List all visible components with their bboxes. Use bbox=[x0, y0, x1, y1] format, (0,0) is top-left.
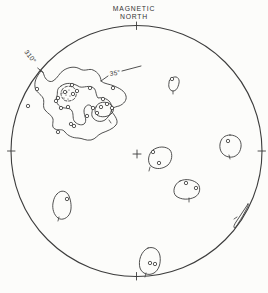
contour-isolated-edge-sliver bbox=[234, 204, 249, 228]
stipple-dot bbox=[61, 92, 62, 93]
data-point bbox=[65, 197, 68, 200]
data-point bbox=[75, 89, 78, 92]
azimuth-310-label: 310° bbox=[23, 48, 38, 64]
plot-render-layer bbox=[8, 22, 266, 280]
data-point bbox=[26, 104, 29, 107]
stipple-dot bbox=[67, 98, 68, 99]
data-point bbox=[105, 102, 108, 105]
contour-isolated-east bbox=[220, 135, 241, 157]
data-point bbox=[59, 106, 62, 109]
data-point bbox=[85, 114, 88, 117]
data-point bbox=[56, 130, 59, 133]
data-point bbox=[54, 99, 57, 102]
contour-isolated-southwest bbox=[53, 191, 71, 219]
contour-tick bbox=[109, 120, 111, 123]
label-leader-line bbox=[122, 66, 141, 71]
data-point bbox=[153, 262, 156, 265]
data-point bbox=[170, 77, 173, 80]
data-point bbox=[148, 261, 151, 264]
contour-cluster-outer bbox=[35, 67, 126, 140]
data-point bbox=[111, 86, 114, 89]
stereonet-plot: MAGNETIC NORTH 310° 35° bbox=[0, 0, 268, 293]
contour-tick bbox=[229, 155, 230, 159]
data-point bbox=[63, 90, 66, 93]
data-point bbox=[194, 186, 197, 189]
data-point bbox=[226, 139, 229, 142]
stipple-dot bbox=[68, 89, 69, 90]
stipple-dot bbox=[63, 97, 64, 98]
stipple-dot bbox=[69, 95, 70, 96]
data-point bbox=[95, 111, 98, 114]
contour-cluster-middle bbox=[56, 83, 111, 124]
data-point bbox=[35, 87, 38, 90]
data-point bbox=[99, 105, 102, 108]
data-point bbox=[71, 92, 74, 95]
data-point bbox=[70, 83, 73, 86]
data-point bbox=[110, 106, 113, 109]
data-point bbox=[91, 106, 94, 109]
data-point bbox=[72, 124, 75, 127]
contour-tick bbox=[149, 167, 150, 171]
data-point bbox=[184, 181, 187, 184]
data-point bbox=[66, 105, 69, 108]
magnetic-north-label-line2: NORTH bbox=[120, 13, 148, 20]
data-point bbox=[151, 150, 154, 153]
contour-tick bbox=[234, 217, 237, 219]
magnetic-north-label-line1: MAGNETIC bbox=[113, 5, 155, 12]
data-point bbox=[88, 86, 91, 89]
data-point bbox=[157, 161, 160, 164]
stipple-dot bbox=[65, 94, 66, 95]
stereonet-figure: MAGNETIC NORTH 310° 35° bbox=[0, 0, 268, 293]
data-point bbox=[101, 97, 104, 100]
projection-circle bbox=[11, 26, 262, 277]
dip-35-label: 35° bbox=[109, 68, 121, 77]
label-leader-line bbox=[101, 76, 108, 81]
